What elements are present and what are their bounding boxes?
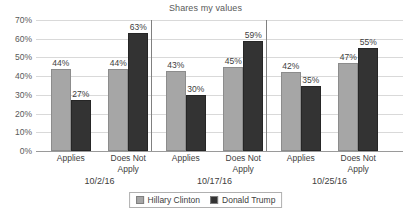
y-axis-tick-label: 40%: [0, 71, 32, 81]
legend-label: Donald Trump: [222, 195, 275, 205]
bar-value-label: 44%: [52, 58, 69, 68]
bar-value-label: 47%: [340, 52, 357, 62]
x-axis-category-label: Applies: [275, 153, 327, 164]
bar-chart: Shares my values 0%10%20%30%40%50%60%70%…: [0, 0, 411, 215]
legend: Hillary ClintonDonald Trump: [129, 192, 283, 208]
bar-trump: [128, 33, 148, 151]
x-axis-group-labels: 10/2/1610/17/1610/25/16: [36, 176, 403, 190]
y-axis-tick-label: 70%: [0, 15, 32, 25]
x-axis-group-label: 10/25/16: [290, 176, 370, 186]
legend-swatch-icon: [210, 196, 218, 204]
y-axis-tick-label: 50%: [0, 52, 32, 62]
bar-trump: [243, 41, 263, 151]
y-axis-tick-label: 20%: [0, 109, 32, 119]
bar-value-label: 35%: [302, 75, 319, 85]
legend-swatch-icon: [136, 196, 144, 204]
bar-clinton: [166, 71, 186, 151]
bar-value-label: 59%: [245, 30, 262, 40]
bar-clinton: [51, 69, 71, 151]
bar-clinton: [223, 67, 243, 151]
x-axis-group-label: 10/2/16: [60, 176, 140, 186]
bar-value-label: 63%: [130, 22, 147, 32]
x-axis-category-label: Applies: [160, 153, 212, 164]
group-separator: [151, 20, 152, 151]
x-axis-category-label: Does Not Apply: [332, 153, 384, 175]
x-axis-category-label: Applies: [45, 153, 97, 164]
plot-area: 44%27%44%63%43%30%45%59%42%35%47%55%: [36, 20, 403, 151]
y-axis-tick-label: 0%: [0, 146, 32, 156]
y-axis-tick-label: 60%: [0, 34, 32, 44]
y-axis-tick-labels: 0%10%20%30%40%50%60%70%: [0, 20, 32, 151]
bar-value-label: 42%: [282, 61, 299, 71]
bar-clinton: [281, 72, 301, 151]
bar-series-container: 44%27%44%63%43%30%45%59%42%35%47%55%: [36, 20, 403, 151]
bar-clinton: [338, 63, 358, 151]
bar-trump: [71, 100, 91, 151]
gridline: [36, 151, 403, 152]
legend-item[interactable]: Hillary Clinton: [136, 195, 200, 205]
bar-value-label: 30%: [187, 84, 204, 94]
bar-trump: [186, 95, 206, 151]
bar-trump: [358, 48, 378, 151]
legend-label: Hillary Clinton: [148, 195, 200, 205]
y-axis-tick-label: 30%: [0, 90, 32, 100]
chart-title: Shares my values: [0, 3, 411, 13]
bar-value-label: 27%: [72, 89, 89, 99]
bar-value-label: 45%: [225, 56, 242, 66]
legend-item[interactable]: Donald Trump: [210, 195, 275, 205]
group-separator: [266, 20, 267, 151]
bar-value-label: 43%: [167, 60, 184, 70]
y-axis-tick-label: 10%: [0, 127, 32, 137]
x-axis-category-label: Does Not Apply: [102, 153, 154, 175]
bar-value-label: 55%: [360, 37, 377, 47]
bar-clinton: [108, 69, 128, 151]
x-axis-group-label: 10/17/16: [175, 176, 255, 186]
bar-value-label: 44%: [110, 58, 127, 68]
bar-trump: [301, 86, 321, 152]
x-axis-category-label: Does Not Apply: [217, 153, 269, 175]
